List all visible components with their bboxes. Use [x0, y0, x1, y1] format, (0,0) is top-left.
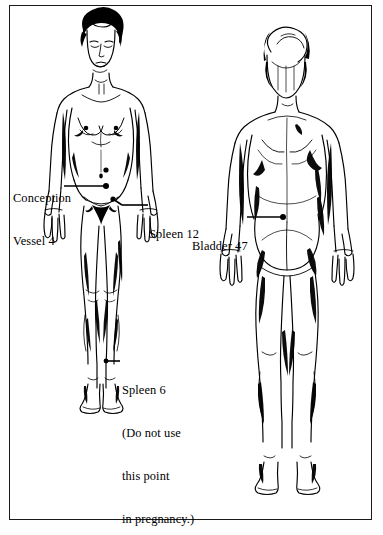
- point-dot-spleen-6: [104, 359, 109, 364]
- acupressure-figure-plate: Conception Vessel 4 Spleen 12 Bladder 47…: [0, 0, 383, 535]
- point-dot-bladder-47: [280, 214, 286, 220]
- label-conception-vessel-4: Conception Vessel 4: [13, 162, 71, 277]
- point-dot-upper-abdomen: [103, 167, 108, 172]
- cv4-line-2: Vessel 4: [13, 234, 71, 248]
- label-bladder-47: Bladder 47: [192, 210, 248, 282]
- point-dot-conception-vessel-4: [103, 183, 109, 189]
- label-spleen-6: Spleen 6 (Do not use this point in pregn…: [122, 354, 194, 535]
- bladder47-line-1: Bladder 47: [192, 239, 248, 253]
- spleen6-line-4: in pregnancy.): [122, 512, 194, 526]
- spleen6-line-2: (Do not use: [122, 426, 194, 440]
- point-dot-spleen-12: [110, 196, 115, 201]
- cv4-line-1: Conception: [13, 191, 71, 205]
- spleen6-line-1: Spleen 6: [122, 383, 194, 397]
- spleen6-line-3: this point: [122, 469, 194, 483]
